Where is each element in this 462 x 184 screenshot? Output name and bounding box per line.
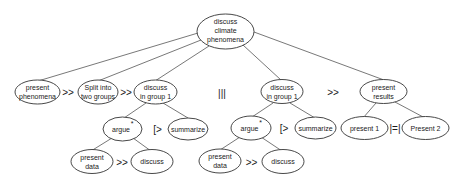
edge-present-results-present2 bbox=[395, 102, 425, 118]
node-label: summarize bbox=[171, 126, 205, 133]
node-label: Split into bbox=[85, 84, 112, 92]
edge-present-results-present1 bbox=[363, 103, 376, 118]
node-label: data bbox=[85, 163, 99, 170]
operator-enabling: >> bbox=[116, 157, 128, 168]
node-discuss-right[interactable]: discuss bbox=[262, 150, 304, 174]
edge-argue-right-discuss bbox=[261, 137, 282, 151]
node-label: discuss bbox=[140, 158, 164, 165]
operator-order-independence: |=| bbox=[389, 123, 400, 134]
edge-argue-left-present-data bbox=[91, 138, 112, 151]
node-summarize-left[interactable]: summarize bbox=[168, 118, 208, 140]
edge-root-present-phenomena bbox=[38, 33, 198, 81]
node-label: discuss bbox=[270, 84, 294, 91]
edge-root-split-groups bbox=[98, 40, 201, 81]
node-label: phenomena bbox=[207, 36, 244, 44]
node-discuss-left[interactable]: discuss bbox=[131, 150, 173, 174]
node-summarize-right[interactable]: summarize bbox=[295, 117, 336, 139]
node-discuss-in-group-1-left[interactable]: discuss in group 1 bbox=[134, 80, 177, 104]
node-label: discuss bbox=[271, 158, 295, 165]
node-label: two groups bbox=[81, 93, 116, 101]
operator-concurrent: ||| bbox=[218, 88, 226, 99]
operator-enabling: >> bbox=[246, 157, 258, 168]
node-present-1[interactable]: present 1 bbox=[341, 117, 388, 140]
iteration-marker: * bbox=[259, 119, 262, 126]
node-present-data-left[interactable]: present data bbox=[71, 150, 113, 174]
node-present-phenomena[interactable]: present phenomena bbox=[15, 80, 60, 104]
node-label: discuss bbox=[144, 84, 168, 91]
operator-disabling: [> bbox=[280, 123, 289, 134]
node-label: in group 1 bbox=[266, 93, 297, 101]
node-label: present bbox=[372, 84, 395, 92]
operator-enabling: >> bbox=[120, 87, 132, 98]
node-argue-right[interactable]: argue * bbox=[231, 116, 271, 140]
node-label: discuss bbox=[214, 18, 238, 25]
node-present-data-right[interactable]: present data bbox=[199, 149, 241, 173]
task-model-diagram: discuss climate phenomena present phenom… bbox=[0, 0, 462, 184]
node-label: Present 2 bbox=[411, 125, 441, 132]
edge-discuss-left-summarize bbox=[163, 103, 188, 118]
node-label: results bbox=[373, 93, 394, 100]
operator-disabling: [> bbox=[153, 124, 162, 135]
node-present-2[interactable]: Present 2 bbox=[402, 117, 449, 140]
iteration-marker: * bbox=[131, 120, 134, 127]
edge-discuss-left-argue bbox=[124, 103, 146, 118]
node-split-into-two-groups[interactable]: Split into two groups bbox=[78, 80, 118, 104]
edge-argue-left-discuss bbox=[133, 138, 151, 151]
node-label: present bbox=[80, 154, 103, 162]
node-label: data bbox=[213, 162, 227, 169]
operator-enabling: >> bbox=[62, 87, 74, 98]
edge-root-discuss-right bbox=[243, 45, 281, 80]
edge-discuss-right-summarize bbox=[290, 103, 315, 118]
node-present-results[interactable]: present results bbox=[360, 80, 407, 104]
operator-enabling: >> bbox=[327, 87, 339, 98]
node-label: present bbox=[26, 84, 49, 92]
edge-root-discuss-left bbox=[155, 46, 209, 81]
node-discuss-climate-phenomena[interactable]: discuss climate phenomena bbox=[197, 14, 254, 49]
node-label: phenomena bbox=[19, 93, 56, 101]
node-label: climate bbox=[214, 27, 236, 34]
node-label: present bbox=[208, 153, 231, 161]
edge-discuss-right-argue bbox=[252, 103, 273, 117]
edge-argue-right-present-data bbox=[220, 137, 240, 150]
node-argue-left[interactable]: argue * bbox=[103, 117, 142, 141]
node-label: in group 1 bbox=[140, 93, 171, 101]
node-label: argue bbox=[241, 125, 259, 133]
node-label: argue bbox=[112, 126, 130, 134]
node-label: present 1 bbox=[350, 125, 379, 133]
node-label: summarize bbox=[298, 125, 332, 132]
node-discuss-in-group-1-right[interactable]: discuss in group 1 bbox=[261, 80, 303, 104]
